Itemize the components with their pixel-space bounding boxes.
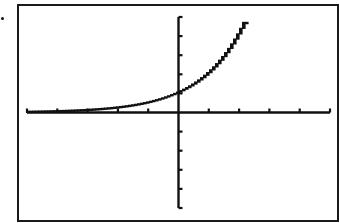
exponential-curve bbox=[26, 22, 249, 113]
curve-pixel bbox=[245, 22, 249, 24]
function-graph bbox=[0, 0, 339, 223]
axes bbox=[27, 17, 330, 208]
